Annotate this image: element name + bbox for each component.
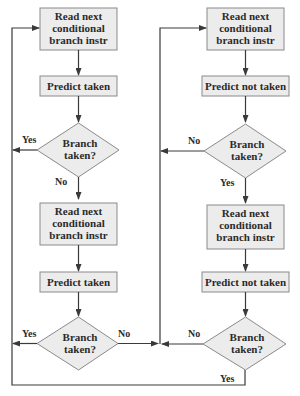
left-read-box-1-line-3: branch instr bbox=[49, 34, 107, 46]
right-read-box-1: Read next conditional branch instr bbox=[207, 8, 284, 50]
right-read-box-2-line-1: Read next bbox=[222, 207, 270, 219]
left-column: Read next conditional branch instr Predi… bbox=[13, 8, 158, 370]
right-decision-1-line-2: taken? bbox=[231, 150, 263, 162]
right-decision-1-line-1: Branch bbox=[230, 138, 265, 150]
left-predict-box-2: Predict taken bbox=[40, 272, 117, 292]
right-decision-1-no-label: No bbox=[188, 135, 200, 146]
left-decision-1-line-2: taken? bbox=[64, 149, 96, 161]
left-decision-2: Branch taken? bbox=[37, 317, 118, 370]
right-predict-box-2: Predict not taken bbox=[202, 272, 289, 292]
loop-to-right-read-box-1 bbox=[160, 28, 206, 344]
left-decision-1-no-label: No bbox=[55, 176, 67, 187]
right-decision-2: Branch taken? bbox=[203, 317, 286, 370]
right-decision-2-line-2: taken? bbox=[231, 343, 263, 355]
right-decision-2-no-label: No bbox=[188, 328, 200, 339]
left-predict-box-2-label: Predict taken bbox=[47, 276, 110, 288]
left-decision-1: Branch taken? bbox=[37, 123, 119, 177]
right-decision-1: Branch taken? bbox=[204, 124, 286, 178]
right-predict-box-1-label: Predict not taken bbox=[205, 80, 286, 92]
left-decision-2-line-1: Branch bbox=[63, 331, 98, 343]
left-decision-1-yes-label: Yes bbox=[22, 134, 37, 145]
left-read-box-2: Read next conditional branch instr bbox=[40, 203, 117, 245]
left-read-box-1-line-2: conditional bbox=[52, 22, 105, 34]
right-predict-box-2-label: Predict not taken bbox=[205, 276, 286, 288]
left-decision-2-line-2: taken? bbox=[64, 343, 96, 355]
left-predict-box-1-label: Predict taken bbox=[47, 80, 110, 92]
left-decision-2-yes-label: Yes bbox=[22, 328, 37, 339]
right-read-box-2: Read next conditional branch instr bbox=[207, 205, 284, 249]
right-decision-1-yes-label: Yes bbox=[220, 177, 235, 188]
left-predict-box-1: Predict taken bbox=[40, 76, 117, 96]
left-read-box-1: Read next conditional branch instr bbox=[40, 8, 117, 50]
left-read-box-2-line-1: Read next bbox=[55, 205, 103, 217]
right-read-box-2-line-2: conditional bbox=[219, 219, 272, 231]
right-column: Read next conditional branch instr Predi… bbox=[161, 8, 289, 384]
left-decision-2-no-label: No bbox=[118, 328, 130, 339]
right-read-box-1-line-3: branch instr bbox=[216, 34, 274, 46]
left-read-box-1-line-1: Read next bbox=[55, 10, 103, 22]
right-decision-2-yes-label: Yes bbox=[220, 373, 235, 384]
right-predict-box-1: Predict not taken bbox=[202, 76, 289, 96]
branch-prediction-flowchart: Read next conditional branch instr Predi… bbox=[0, 0, 300, 396]
left-decision-1-line-1: Branch bbox=[63, 137, 98, 149]
right-read-box-1-line-2: conditional bbox=[219, 22, 272, 34]
right-read-box-2-line-3: branch instr bbox=[216, 231, 274, 243]
right-read-box-1-line-1: Read next bbox=[222, 10, 270, 22]
right-decision-2-line-1: Branch bbox=[230, 331, 265, 343]
left-read-box-2-line-3: branch instr bbox=[49, 229, 107, 241]
left-read-box-2-line-2: conditional bbox=[52, 217, 105, 229]
